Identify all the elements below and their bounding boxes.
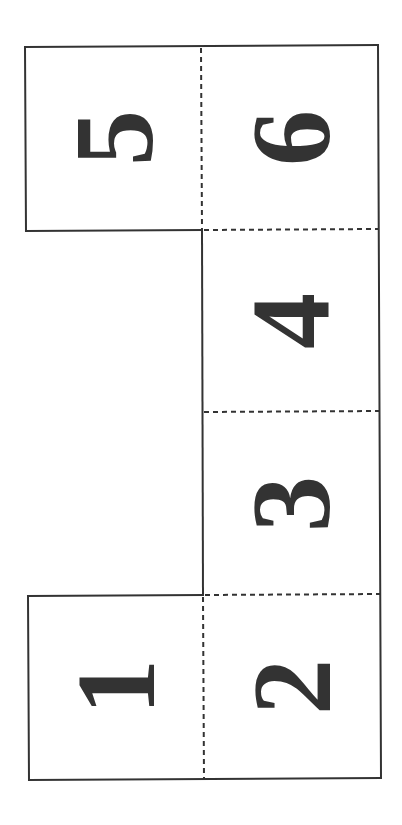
face-3: 3 (202, 412, 379, 595)
face-label-2: 2 (236, 659, 348, 715)
face-6: 6 (202, 46, 379, 230)
face-5: 5 (25, 46, 202, 230)
cube-net-diagram: 5 6 4 3 1 2 (0, 0, 402, 825)
face-2: 2 (203, 595, 380, 779)
face-label-1: 1 (60, 659, 172, 715)
face-label-3: 3 (235, 476, 347, 532)
face-label-6: 6 (235, 110, 347, 166)
face-label-5: 5 (58, 110, 170, 166)
face-1: 1 (28, 595, 203, 779)
face-label-4: 4 (235, 293, 347, 349)
face-4: 4 (202, 230, 379, 412)
